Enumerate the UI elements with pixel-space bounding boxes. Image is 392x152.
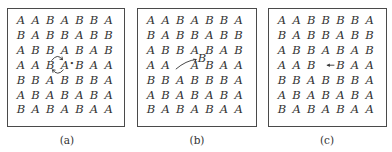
lattice-atom: B (30, 44, 42, 56)
caption-c: (c) (312, 134, 342, 146)
lattice-atom: B (73, 44, 85, 56)
lattice-atom: A (305, 89, 317, 101)
lattice-atom: A (59, 44, 71, 56)
lattice-atom: B (88, 74, 100, 86)
lattice-atom: B (174, 44, 186, 56)
lattice-atom: A (15, 59, 27, 71)
lattice-atom: A (233, 103, 245, 115)
lattice-atom: B (160, 44, 172, 56)
lattice-atom: B (88, 89, 100, 101)
lattice-atom: B (276, 29, 288, 41)
lattice-atom: B (145, 29, 157, 41)
lattice-atom: B (59, 29, 71, 41)
lattice-atom: B (145, 74, 157, 86)
lattice-atom: A (145, 44, 157, 56)
lattice-atom: B (44, 44, 56, 56)
lattice-atom: A (59, 14, 71, 26)
lattice-atom: B (291, 89, 303, 101)
caption-b: (b) (182, 134, 212, 146)
lattice-atom: B (364, 29, 376, 41)
lattice-atom: B (334, 14, 346, 26)
lattice-atom: B (73, 14, 85, 26)
lattice-atom: A (160, 103, 172, 115)
lattice-atom: B (305, 44, 317, 56)
lattice-atom: B (218, 14, 230, 26)
lattice-atom: B (233, 29, 245, 41)
lattice-atom: A (30, 59, 42, 71)
lattice-atom: B (349, 89, 361, 101)
lattice-atom: A (59, 103, 71, 115)
lattice-atom: B (276, 74, 288, 86)
lattice-atom: B (174, 29, 186, 41)
lattice-atom: B (44, 14, 56, 26)
lattice-atom: A (203, 89, 215, 101)
lattice-atom: B (305, 59, 317, 71)
lattice-atom: B (15, 103, 27, 115)
lattice-atom: A (276, 14, 288, 26)
lattice-atom: A (145, 89, 157, 101)
lattice-atom: A (160, 29, 172, 41)
lattice-atom: B (174, 14, 186, 26)
lattice-atom: B (364, 44, 376, 56)
lattice-atom: B (218, 74, 230, 86)
lattice-atom: A (305, 74, 317, 86)
interstitial-atom: B (196, 52, 208, 64)
lattice-atom: B (44, 59, 56, 71)
lattice-atom: A (15, 89, 27, 101)
panel-c-vacancy: AABBBBABABBABBABBABABAABBAABBABBBAABABAB… (268, 8, 387, 127)
lattice-atom: A (103, 103, 115, 115)
lattice-atom: A (364, 74, 376, 86)
lattice-atom: A (291, 59, 303, 71)
lattice-atom: B (189, 74, 201, 86)
lattice-atom: B (320, 74, 332, 86)
atom-marker: • (66, 58, 78, 70)
lattice-atom: B (305, 14, 317, 26)
lattice-atom: B (174, 103, 186, 115)
lattice-atom: A (364, 14, 376, 26)
lattice-atom: B (334, 103, 346, 115)
lattice-atom: B (44, 29, 56, 41)
lattice-atom: A (349, 44, 361, 56)
lattice-atom: A (15, 44, 27, 56)
lattice-atom: A (88, 44, 100, 56)
lattice-atom: B (189, 29, 201, 41)
lattice-atom: A (88, 103, 100, 115)
lattice-atom: A (218, 59, 230, 71)
lattice-atom: B (320, 14, 332, 26)
lattice-atom: A (334, 29, 346, 41)
lattice-atom: A (30, 14, 42, 26)
lattice-atom: A (189, 14, 201, 26)
lattice-atom: A (349, 103, 361, 115)
lattice-atom: A (320, 44, 332, 56)
lattice-atom: B (349, 29, 361, 41)
lattice-atom: B (59, 74, 71, 86)
lattice-atom: B (218, 89, 230, 101)
panel-a-exchange: AABABBABABBABBABBABABAABABAABBABBBAABABA… (7, 8, 125, 127)
lattice-atom: A (160, 14, 172, 26)
lattice-atom: A (364, 103, 376, 115)
lattice-atom: A (44, 89, 56, 101)
lattice-atom: A (218, 44, 230, 56)
lattice-atom: B (305, 29, 317, 41)
lattice-atom: A (291, 103, 303, 115)
lattice-atom: B (349, 14, 361, 26)
lattice-atom: B (145, 103, 157, 115)
lattice-atom: B (44, 103, 56, 115)
lattice-atom: B (189, 89, 201, 101)
lattice-atom: B (160, 74, 172, 86)
lattice-atom: B (276, 103, 288, 115)
lattice-atom: B (73, 74, 85, 86)
lattice-atom: A (103, 74, 115, 86)
caption-a: (a) (52, 134, 82, 146)
lattice-atom: A (291, 14, 303, 26)
lattice-atom: B (320, 89, 332, 101)
lattice-atom: A (103, 14, 115, 26)
lattice-atom: A (233, 74, 245, 86)
lattice-atom: A (233, 14, 245, 26)
lattice-atom: A (88, 59, 100, 71)
lattice-atom: B (15, 29, 27, 41)
lattice-atom: B (203, 103, 215, 115)
lattice-atom: A (160, 59, 172, 71)
panel-b-interstitial: AABABBABABBABBABBABABAAABAABBABBBAABABAB… (137, 8, 257, 127)
lattice-atom: B (334, 74, 346, 86)
